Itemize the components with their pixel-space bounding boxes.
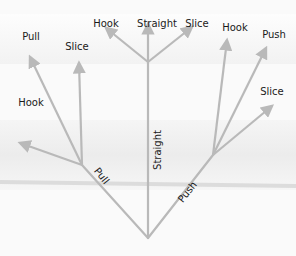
label-push-push: Push: [262, 29, 286, 40]
trunk-label-pull: Pull: [92, 165, 112, 186]
trunk-label-straight: Straight: [152, 130, 163, 170]
label-pull-pull: Pull: [22, 31, 40, 42]
arrow-straight-hook: [106, 28, 148, 62]
label-straight-straight: Straight: [137, 18, 177, 29]
golf-shot-shape-diagram: HookPullSliceHookStraightSliceHookPushSl…: [0, 0, 296, 256]
label-push-hook: Hook: [222, 22, 248, 33]
label-pull-slice: Slice: [65, 41, 89, 52]
trunk-label-push: Push: [176, 179, 199, 204]
trunk-pull: [82, 165, 148, 238]
arrow-pull-slice: [79, 63, 82, 165]
label-pull-hook: Hook: [18, 97, 44, 108]
label-straight-hook: Hook: [93, 18, 119, 29]
shot-tree: HookPullSliceHookStraightSliceHookPushSl…: [0, 0, 296, 256]
arrow-straight-slice: [148, 27, 192, 62]
arrow-push-hook: [213, 40, 227, 155]
arrow-push-slice: [213, 106, 272, 155]
label-push-slice: Slice: [260, 86, 284, 97]
label-straight-slice: Slice: [185, 18, 209, 29]
arrow-push-push: [213, 48, 266, 155]
